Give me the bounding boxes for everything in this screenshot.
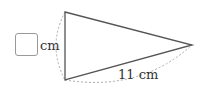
- answer-unit-label: cm: [40, 38, 60, 53]
- triangle-diagram: cm 11 cm: [0, 0, 203, 89]
- answer-box[interactable]: [16, 34, 38, 56]
- side-length-label: 11 cm: [118, 67, 158, 82]
